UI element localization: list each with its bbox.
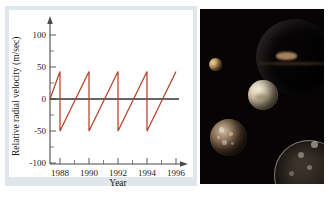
y-axis-arrowhead — [47, 16, 53, 24]
partial-moon-crater — [289, 171, 294, 176]
y-tick-label-50: 50 — [37, 62, 47, 72]
y-tick-label-neg50: -50 — [34, 126, 46, 136]
y-tick-label-100: 100 — [33, 30, 47, 40]
x-tick-label-1996: 1996 — [167, 168, 186, 178]
partial-moon-crater — [311, 141, 318, 148]
x-tick-label-1990: 1990 — [80, 168, 99, 178]
ganymede-moon — [248, 80, 278, 110]
partial-moon-crater — [307, 165, 312, 170]
x-tick-label-1992: 1992 — [109, 168, 127, 178]
radial-velocity-chart: 100 50 0 -50 -100 Relative radial veloci… — [5, 6, 197, 186]
x-tick-label-1994: 1994 — [138, 168, 157, 178]
io-moon — [209, 58, 222, 71]
callisto-crater — [222, 140, 227, 144]
photo-field — [200, 9, 324, 184]
x-axis-title: Year — [109, 178, 127, 186]
callisto-crater — [217, 136, 220, 139]
y-tick-label-neg100: -100 — [30, 158, 47, 168]
jupiter-belt — [259, 62, 324, 65]
callisto-crater — [231, 142, 234, 145]
ganymede-surface-mark — [255, 94, 267, 101]
y-tick-label-0: 0 — [42, 94, 47, 104]
x-axis-arrowhead — [180, 161, 188, 167]
callisto-crater — [219, 127, 225, 133]
x-axis-major-ticks — [60, 158, 176, 164]
figure-root: 100 50 0 -50 -100 Relative radial veloci… — [0, 0, 329, 202]
partial-moon-crater — [298, 152, 304, 158]
y-axis-title: Relative radial velocity (m/sec) — [11, 37, 22, 157]
jupiter-moons-photo-panel — [198, 7, 326, 186]
radial-velocity-chart-panel: 100 50 0 -50 -100 Relative radial veloci… — [5, 6, 197, 186]
callisto-crater — [229, 132, 233, 136]
x-tick-label-1988: 1988 — [51, 168, 70, 178]
callisto-moon — [210, 119, 247, 156]
radial-velocity-curve — [50, 72, 176, 132]
great-red-spot — [276, 52, 296, 60]
